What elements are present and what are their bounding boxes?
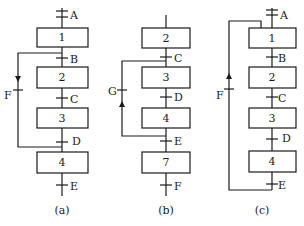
transition-label-b-D: D — [174, 91, 183, 104]
arrow-up-icon — [226, 73, 232, 79]
transition-label-b-G: G — [108, 85, 117, 98]
step-label-a-4: 4 — [59, 156, 66, 169]
step-label-b-3: 3 — [163, 71, 170, 84]
transition-label-a-B: B — [70, 53, 78, 66]
transition-label-c-A: A — [279, 9, 289, 22]
sfc-diagrams: A 1 B 2 C 3 D 4 E F (a) 2 C 3 D — [0, 0, 304, 226]
transition-label-c-F: F — [216, 89, 224, 102]
diagram-b: 2 C 3 D 4 E 7 F G (b) — [108, 15, 190, 217]
step-label-b-2: 2 — [163, 32, 170, 45]
step-label-b-4: 4 — [163, 112, 170, 125]
transition-label-a-F: F — [4, 89, 12, 102]
step-label-a-1: 1 — [59, 31, 66, 44]
step-label-c-4: 4 — [269, 155, 276, 168]
step-label-c-3: 3 — [269, 112, 276, 125]
transition-label-c-C: C — [278, 92, 286, 105]
step-label-b-7: 7 — [163, 156, 170, 169]
arrow-down-icon — [15, 76, 21, 82]
transition-label-b-E: E — [174, 135, 182, 148]
diagram-a: A 1 B 2 C 3 D 4 E F (a) — [4, 8, 88, 217]
transition-label-a-D: D — [72, 135, 81, 148]
transition-label-c-E: E — [278, 179, 286, 192]
step-label-c-2: 2 — [269, 71, 276, 84]
transition-label-c-D: D — [282, 132, 291, 145]
transition-label-a-C: C — [70, 93, 78, 106]
caption-c: (c) — [255, 204, 270, 217]
caption-a: (a) — [54, 204, 69, 217]
step-label-c-1: 1 — [269, 32, 276, 45]
step-label-a-3: 3 — [59, 112, 66, 125]
transition-label-b-C: C — [174, 52, 182, 65]
transition-label-a-E: E — [70, 180, 78, 193]
transition-label-c-B: B — [278, 52, 286, 65]
caption-b: (b) — [158, 204, 174, 217]
transition-label-b-F: F — [174, 180, 182, 193]
transition-label-a-A: A — [69, 9, 79, 22]
step-label-a-2: 2 — [59, 71, 66, 84]
diagram-c: A 1 B 2 C 3 D 4 E F (c) — [216, 8, 296, 217]
arrow-up-icon — [119, 101, 125, 107]
